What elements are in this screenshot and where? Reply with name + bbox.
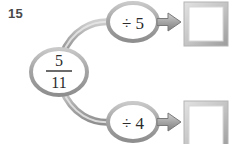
arrow-bottom-icon (157, 113, 181, 131)
answer-box-bottom[interactable] (184, 101, 228, 144)
input-fraction-denominator: 11 (51, 74, 66, 91)
answer-box-bottom-field[interactable] (189, 106, 223, 144)
answer-box-top-field[interactable] (189, 7, 223, 41)
operation-node-top: ÷ 5 (108, 3, 158, 41)
operation-label-top: ÷ 5 (122, 14, 144, 33)
operation-label-bottom: ÷ 4 (122, 114, 145, 133)
answer-box-top[interactable] (184, 2, 228, 46)
worksheet-problem-canvas: 15 (0, 0, 234, 144)
input-fraction-numerator: 5 (55, 52, 63, 69)
operation-node-bottom: ÷ 4 (108, 103, 158, 141)
input-fraction-node: 5 11 (31, 49, 87, 95)
arrow-top-icon (157, 13, 181, 31)
function-machine-diagram: 5 11 ÷ 5 ÷ 4 (0, 0, 234, 144)
